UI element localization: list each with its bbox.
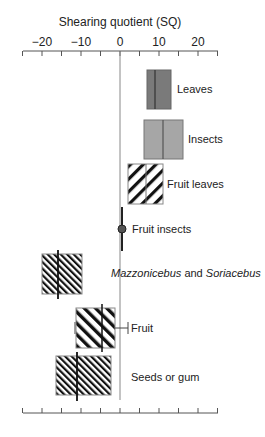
shearing-quotient-chart: Shearing quotient (SQ) −20 −10 0 <box>0 0 265 437</box>
point-fruit-insects: Fruit insects <box>118 207 192 251</box>
chart-plot: −20 −10 0 10 20 Leaves Insects Fruit lea… <box>0 0 265 437</box>
bottom-axis-ticks <box>23 408 218 413</box>
tick-label-20: 20 <box>191 35 205 49</box>
x-axis-title: Shearing quotient (SQ) <box>0 15 240 29</box>
box-seeds-or-gum: Seeds or gum <box>56 352 199 401</box>
tick-label-0: 0 <box>117 35 124 49</box>
label-fruit-leaves: Fruit leaves <box>167 178 224 190</box>
label-mazzonicebus-soriacebus: Mazzonicebus and Soriacebus <box>111 267 261 279</box>
label-fruit-insects: Fruit insects <box>132 223 192 235</box>
box-fruit-leaves: Fruit leaves <box>128 164 224 204</box>
box-insects: Insects <box>144 120 223 159</box>
label-fruit: Fruit <box>131 322 153 334</box>
tick-label-10: 10 <box>152 35 166 49</box>
tick-label-neg20: −20 <box>32 35 53 49</box>
box-leaves: Leaves <box>147 70 213 109</box>
label-insects: Insects <box>188 133 223 145</box>
bottom-x-axis <box>23 408 219 413</box>
label-seeds-or-gum: Seeds or gum <box>131 371 199 383</box>
tick-label-neg10: −10 <box>71 35 92 49</box>
box-mazzonicebus-soriacebus: Mazzonicebus and Soriacebus <box>42 250 261 299</box>
top-axis-tick-labels: −20 −10 0 10 20 <box>32 35 205 49</box>
box-fruit: Fruit <box>75 304 153 352</box>
label-leaves: Leaves <box>177 83 213 95</box>
